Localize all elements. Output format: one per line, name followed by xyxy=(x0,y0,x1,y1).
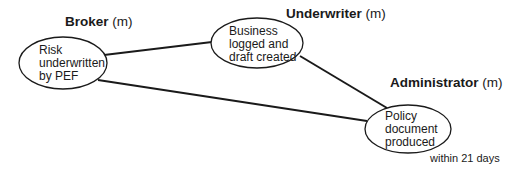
edge-broker-underwriter xyxy=(104,42,212,55)
node-text-line: by PEF xyxy=(39,70,105,83)
role-name: Broker xyxy=(65,14,109,29)
role-suffix: (m) xyxy=(482,75,502,90)
role-suffix: (m) xyxy=(366,6,386,21)
node-text-line: produced xyxy=(385,136,438,149)
node-broker-text: Risk underwritten by PEF xyxy=(39,44,105,83)
node-underwriter-text: Business logged and draft created xyxy=(229,25,296,64)
timeframe-note: within 21 days xyxy=(430,152,500,164)
node-text-line: draft created xyxy=(229,51,296,64)
role-label-administrator: Administrator (m) xyxy=(390,75,503,90)
role-name: Underwriter xyxy=(286,6,362,21)
edge-broker-administrator xyxy=(98,80,367,121)
role-name: Administrator xyxy=(390,75,479,90)
edge-underwriter-administrator xyxy=(300,56,387,108)
node-administrator-text: Policy document produced xyxy=(385,110,438,149)
role-label-broker: Broker (m) xyxy=(65,14,133,29)
role-label-underwriter: Underwriter (m) xyxy=(286,6,386,21)
role-suffix: (m) xyxy=(112,14,132,29)
